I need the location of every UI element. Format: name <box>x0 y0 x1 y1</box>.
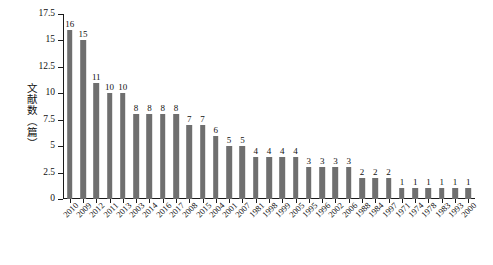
bar-item: 1 <box>462 14 475 199</box>
bar <box>399 188 405 199</box>
bar <box>67 30 73 199</box>
bar-value-label: 8 <box>160 103 165 113</box>
bar-value-label: 15 <box>78 29 87 39</box>
y-tick-label: 12.5 <box>38 60 55 73</box>
bar-item: 1 <box>448 14 461 199</box>
bar <box>333 167 339 199</box>
bar-value-label: 1 <box>400 177 405 187</box>
bar-item: 3 <box>329 14 342 199</box>
bar-item: 4 <box>262 14 275 199</box>
bar-value-label: 4 <box>267 146 272 156</box>
bar-value-label: 4 <box>293 146 298 156</box>
y-tick-label: 5 <box>50 139 55 152</box>
bar-item: 6 <box>209 14 222 199</box>
bar <box>147 114 153 199</box>
bar-value-label: 1 <box>453 177 458 187</box>
bar <box>226 146 232 199</box>
bar <box>240 146 246 199</box>
bar <box>160 114 166 199</box>
bar-value-label: 5 <box>227 135 232 145</box>
bar-value-label: 1 <box>440 177 445 187</box>
y-tick-label: 17.5 <box>38 7 55 20</box>
bar-value-label: 1 <box>426 177 431 187</box>
bar-value-label: 6 <box>214 125 219 135</box>
bar-item: 2 <box>382 14 395 199</box>
bar-item: 8 <box>143 14 156 199</box>
bar-value-label: 4 <box>280 146 285 156</box>
bar-value-label: 7 <box>200 114 205 124</box>
y-axis-title: 文献数（篇） <box>12 68 36 164</box>
bar <box>412 188 418 199</box>
bar-item: 4 <box>289 14 302 199</box>
bar <box>173 114 179 199</box>
bar <box>107 93 113 199</box>
bar <box>93 83 99 199</box>
bar-item: 7 <box>196 14 209 199</box>
bar-value-label: 8 <box>174 103 179 113</box>
bar-value-label: 16 <box>65 19 74 29</box>
bar <box>319 167 325 199</box>
y-tick: 0 <box>58 199 63 200</box>
bar-value-label: 3 <box>333 156 338 166</box>
bar <box>466 188 472 199</box>
bar <box>452 188 458 199</box>
bar <box>266 157 272 199</box>
y-tick-label: 7.5 <box>43 113 55 126</box>
bar-item: 5 <box>236 14 249 199</box>
bar-value-label: 3 <box>320 156 325 166</box>
bar-value-label: 2 <box>386 167 391 177</box>
bar-item: 4 <box>249 14 262 199</box>
bar-item: 8 <box>156 14 169 199</box>
bar-item: 16 <box>63 14 76 199</box>
bar-value-label: 8 <box>134 103 139 113</box>
bar-value-label: 11 <box>92 72 101 82</box>
bar-item: 2 <box>369 14 382 199</box>
bar <box>200 125 206 199</box>
bar-item: 1 <box>395 14 408 199</box>
bar-value-label: 10 <box>118 82 127 92</box>
bar <box>279 157 285 199</box>
bar-value-label: 7 <box>187 114 192 124</box>
bar <box>306 167 312 199</box>
bar <box>346 167 352 199</box>
bar <box>293 157 299 199</box>
bar-item: 15 <box>76 14 89 199</box>
bar-item: 10 <box>103 14 116 199</box>
bar <box>373 178 379 199</box>
x-tick-label: 2000 <box>460 201 479 220</box>
bar-item: 3 <box>342 14 355 199</box>
x-axis-tick-labels: 2010200920122011201320032014201620172008… <box>63 201 475 245</box>
bar <box>120 93 126 199</box>
bar-item: 1 <box>435 14 448 199</box>
bar-value-label: 8 <box>147 103 152 113</box>
y-tick-label: 15 <box>46 33 56 46</box>
bar-value-label: 2 <box>360 167 365 177</box>
bar-item: 8 <box>129 14 142 199</box>
bar-value-label: 1 <box>413 177 418 187</box>
bar-series: 161511101088887765544443333222111111 <box>63 14 475 199</box>
bar <box>186 125 192 199</box>
bar-item: 2 <box>355 14 368 199</box>
bar-item: 7 <box>183 14 196 199</box>
bar-item: 10 <box>116 14 129 199</box>
bar-item: 4 <box>276 14 289 199</box>
y-tick-label: 10 <box>46 86 56 99</box>
bar-value-label: 10 <box>105 82 114 92</box>
bar <box>439 188 445 199</box>
bar-item: 8 <box>169 14 182 199</box>
bar-item: 11 <box>90 14 103 199</box>
y-tick-label: 0 <box>50 192 55 205</box>
bar-item: 3 <box>302 14 315 199</box>
figure-caption <box>0 260 493 265</box>
bar-item: 5 <box>222 14 235 199</box>
bar <box>133 114 139 199</box>
bar-item: 1 <box>409 14 422 199</box>
bar-value-label: 4 <box>253 146 258 156</box>
bar-item: 1 <box>422 14 435 199</box>
bar-value-label: 1 <box>466 177 471 187</box>
bar <box>359 178 365 199</box>
bar <box>213 136 219 199</box>
bar-value-label: 2 <box>373 167 378 177</box>
figure-bar-chart: 文献数（篇） 02.557.51012.51517.5 161511101088… <box>0 0 493 265</box>
bar <box>80 40 86 199</box>
